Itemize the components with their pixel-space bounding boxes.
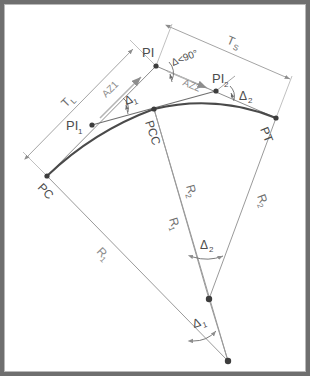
label-pc: PC [35,180,57,202]
label-az2: AZ2 [181,77,203,94]
compound-curve-diagram: T L T S AZ1 AZ2 PI Δ<90° PI 1 [4,4,306,372]
label-pi2: PI [212,71,224,86]
tangent-line-back [47,66,156,176]
angle-arc-delta1-center [193,331,216,341]
label-r2-mid-subscript: 2 [183,193,193,200]
node-pc [44,173,49,178]
node-pt [273,115,278,120]
node-pcc [151,106,156,111]
node-pi [153,63,158,68]
label-az1: AZ1 [100,78,121,99]
label-pcc: PCC [142,119,163,148]
label-delta2-center: Δ [200,238,208,252]
angle-tick-delta2-pi2 [231,93,234,101]
dimension-line-tl [28,49,133,156]
node-pi1 [89,122,94,127]
arc-curve-2 [154,103,276,118]
angle-tick-delta-pi [170,74,172,82]
label-pi2-subscript: 2 [224,80,229,89]
node-center-1 [225,358,231,364]
node-center-2 [206,296,212,302]
label-pi: PI [142,45,154,60]
label-delta1-center: Δ [191,315,203,331]
radius-line-pt-to-o2 [209,118,276,299]
tangent-lines [47,66,276,176]
extension-line-pt [276,76,292,118]
extension-line-pc [23,152,47,176]
text-labels: T L T S AZ1 AZ2 PI Δ<90° PI 1 [35,33,276,333]
label-delta2-center-subscript: 2 [209,245,214,254]
label-delta-less-than-90: Δ<90° [170,47,200,68]
node-pi2 [213,88,218,93]
label-pt: PT [257,125,276,145]
label-pi1-group: PI 1 [66,118,83,136]
label-delta2-upper-subscript: 2 [248,96,253,105]
diagram-frame: T L T S AZ1 AZ2 PI Δ<90° PI 1 [0,0,310,376]
arc-curve-1 [47,109,154,176]
label-r1-mid-subscript: 1 [167,225,177,232]
label-delta2-upper: Δ [239,89,247,103]
label-delta1-center-subscript: 1 [201,320,209,330]
label-pi2-group: PI 2 [212,71,229,89]
label-pi1: PI [66,118,78,133]
label-pi1-subscript: 1 [78,127,83,136]
